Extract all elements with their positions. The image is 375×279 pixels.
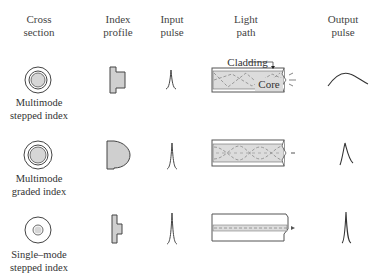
- row-label-multimode-stepped: Multimode stepped index: [4, 96, 74, 122]
- cross-section-multimode-stepped: [25, 67, 51, 93]
- index-profile-stepped: [110, 67, 125, 93]
- output-pulse-icon: [342, 212, 351, 243]
- input-pulse-icon: [167, 143, 177, 169]
- output-pulse-icon: [340, 143, 353, 165]
- input-pulse-icon: [166, 70, 176, 89]
- cross-section-multimode-graded: [24, 141, 52, 169]
- core-label: Core: [255, 78, 283, 91]
- row-label-line: stepped index: [4, 261, 74, 274]
- diagram-graphics: [0, 0, 375, 279]
- input-pulse-icon: [167, 213, 177, 244]
- index-profile-graded: [107, 141, 130, 169]
- light-path-single-mode: [212, 214, 295, 241]
- row-label-line: Multimode: [4, 96, 74, 109]
- cross-section-single-mode: [25, 217, 51, 243]
- row-label-line: stepped index: [4, 109, 74, 122]
- cladding-label: Cladding: [225, 56, 270, 69]
- row-label-multimode-graded: Multimode graded index: [4, 172, 74, 198]
- index-profile-single: [112, 215, 122, 243]
- row-label-line: graded index: [4, 185, 74, 198]
- row-label-single-mode: Single–mode stepped index: [4, 248, 74, 274]
- light-path-multimode-graded: [212, 140, 295, 166]
- output-pulse-icon: [328, 73, 368, 86]
- row-label-line: Multimode: [4, 172, 74, 185]
- row-label-line: Single–mode: [4, 248, 74, 261]
